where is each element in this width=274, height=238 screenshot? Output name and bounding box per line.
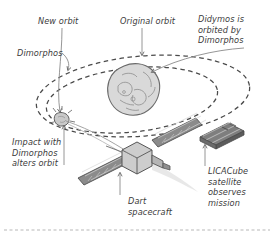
label-didymos-orbited-by-dimorphos: Didymos is orbited by Dimorphos	[198, 14, 244, 46]
licacube-satellite	[200, 122, 244, 149]
dart-spacecraft	[78, 113, 206, 185]
label-licacube-satellite: LICACube satellite observes mission	[208, 166, 248, 208]
dart-solar-panel-right	[152, 113, 206, 147]
didymos-leader	[152, 48, 244, 72]
dart-impact-trajectory	[66, 121, 128, 152]
label-original-orbit: Original orbit	[120, 16, 175, 27]
dart-exhaust-plume	[152, 163, 198, 192]
dimorphos-leader	[62, 53, 69, 70]
label-new-orbit: New orbit	[38, 16, 78, 27]
new-orbit-leader	[59, 28, 62, 112]
label-dimorphos: Dimorphos	[17, 48, 63, 59]
label-dart-spacecraft: Dart spacecraft	[128, 196, 172, 217]
didymos-asteroid	[108, 64, 160, 116]
dart-mission-diagram: New orbit Original orbit Didymos is orbi…	[0, 0, 274, 238]
dart-body	[122, 142, 152, 174]
label-impact-alters-orbit: Impact with Dimorphos alters orbit	[12, 137, 61, 169]
